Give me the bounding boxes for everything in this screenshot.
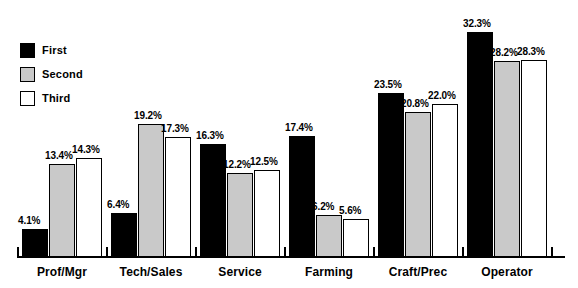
bar-operator-third: [521, 60, 547, 258]
bar-value-label: 22.0%: [428, 91, 456, 101]
bar-farming-first: [289, 136, 315, 258]
bar-value-label: 4.1%: [18, 216, 40, 226]
legend-item-third: Third: [20, 88, 83, 108]
axis-tick: [284, 247, 286, 256]
bar-value-label: 12.2%: [223, 160, 251, 170]
bar-service-third: [254, 170, 280, 258]
legend-label-second: Second: [42, 69, 83, 80]
axis-tick: [551, 247, 553, 256]
bar-value-label: 17.3%: [161, 124, 189, 134]
bar-value-label: 16.3%: [196, 131, 224, 141]
legend-item-second: Second: [20, 64, 83, 84]
bar-value-label: 17.4%: [285, 123, 313, 133]
bar-value-label: 28.3%: [517, 47, 545, 57]
axis-tick: [462, 247, 464, 256]
bar-operator-second: [494, 61, 520, 258]
bar-value-label: 5.6%: [339, 206, 361, 216]
gray-square-icon: [20, 67, 35, 82]
bar-value-label: 13.4%: [45, 151, 73, 161]
bar-service-second: [227, 173, 253, 258]
axis-tick: [373, 247, 375, 256]
bar-value-label: 19.2%: [134, 111, 162, 121]
bar-value-label: 28.2%: [490, 48, 518, 58]
bar-value-label: 20.8%: [401, 99, 429, 109]
bar-tech-sales-first: [111, 213, 137, 258]
bar-prof-mgr-third: [76, 158, 102, 258]
chart-legend: First Second Third: [20, 40, 83, 112]
bar-craft-prec-third: [432, 104, 458, 258]
bar-value-label: 6.4%: [107, 200, 129, 210]
bar-tech-sales-second: [138, 124, 164, 258]
legend-label-first: First: [42, 45, 67, 56]
bar-farming-second: [316, 215, 342, 258]
grouped-bar-chart: First Second Third 4.1%13.4%14.3%6.4%19.…: [0, 0, 578, 288]
legend-label-third: Third: [42, 93, 71, 104]
legend-item-first: First: [20, 40, 83, 60]
bar-value-label: 12.5%: [250, 157, 278, 167]
bar-tech-sales-third: [165, 137, 191, 258]
bar-value-label: 23.5%: [374, 80, 402, 90]
x-axis-line: [17, 256, 565, 258]
axis-tick: [106, 247, 108, 256]
bar-farming-third: [343, 219, 369, 258]
black-square-icon: [20, 43, 35, 58]
bar-value-label: 14.3%: [72, 145, 100, 155]
bar-craft-prec-second: [405, 112, 431, 258]
white-square-icon: [20, 91, 35, 106]
axis-tick: [195, 247, 197, 256]
category-label-operator: Operator: [455, 266, 559, 279]
bar-value-label: 6.2%: [312, 202, 334, 212]
bar-value-label: 32.3%: [463, 19, 491, 29]
bar-prof-mgr-first: [22, 229, 48, 258]
plot-area: 4.1%13.4%14.3%6.4%19.2%17.3%16.3%12.2%12…: [0, 0, 578, 258]
bar-operator-first: [467, 32, 493, 258]
bar-craft-prec-first: [378, 93, 404, 258]
bar-prof-mgr-second: [49, 164, 75, 258]
axis-tick: [17, 247, 19, 256]
